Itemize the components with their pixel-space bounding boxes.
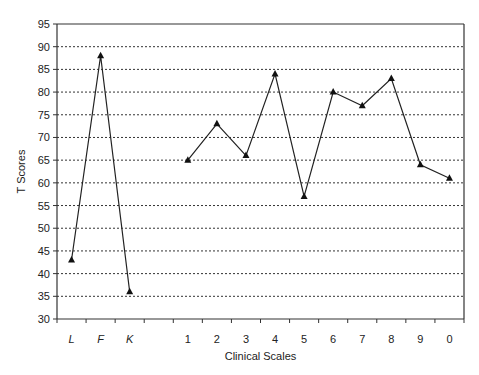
x-tick-label: 5 — [301, 333, 307, 345]
y-tick-label: 80 — [38, 86, 50, 98]
y-tick-label: 45 — [38, 245, 50, 257]
x-tick-label: 0 — [446, 333, 452, 345]
y-tick-label: 60 — [38, 177, 50, 189]
x-tick-label: K — [126, 333, 134, 345]
line-chart: 3035404550556065707580859095LFK123456789… — [0, 0, 479, 375]
y-tick-label: 65 — [38, 154, 50, 166]
x-tick-label: 3 — [243, 333, 249, 345]
x-tick-label: 4 — [272, 333, 278, 345]
y-tick-label: 30 — [38, 313, 50, 325]
y-tick-label: 35 — [38, 290, 50, 302]
y-tick-label: 85 — [38, 63, 50, 75]
x-tick-label: L — [68, 333, 74, 345]
x-axis-title: Clinical Scales — [225, 350, 297, 362]
x-tick-label: 6 — [330, 333, 336, 345]
x-tick-label: 7 — [359, 333, 365, 345]
y-tick-label: 90 — [38, 41, 50, 53]
triangle-marker — [301, 192, 308, 199]
triangle-marker — [97, 52, 104, 59]
y-tick-label: 40 — [38, 268, 50, 280]
y-tick-label: 70 — [38, 131, 50, 143]
triangle-marker — [126, 288, 133, 295]
y-tick-label: 55 — [38, 200, 50, 212]
y-tick-label: 50 — [38, 222, 50, 234]
x-tick-label: F — [97, 333, 105, 345]
triangle-marker — [213, 120, 220, 127]
triangle-marker — [388, 74, 395, 81]
y-axis-title: T Scores — [15, 149, 27, 193]
x-tick-label: 1 — [185, 333, 191, 345]
y-tick-label: 75 — [38, 109, 50, 121]
x-tick-label: 2 — [214, 333, 220, 345]
triangle-marker — [272, 70, 279, 77]
triangle-marker — [68, 256, 75, 263]
triangle-marker — [330, 88, 337, 95]
data-line — [72, 56, 130, 292]
x-tick-label: 8 — [388, 333, 394, 345]
y-tick-label: 95 — [38, 18, 50, 30]
triangle-marker — [417, 161, 424, 168]
x-tick-label: 9 — [417, 333, 423, 345]
